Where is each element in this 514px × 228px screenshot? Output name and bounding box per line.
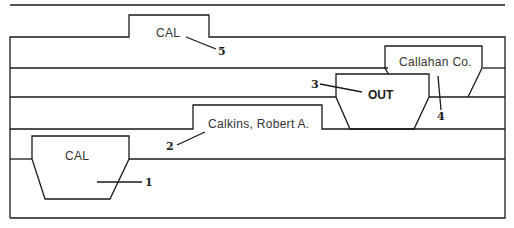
callout-line-5	[186, 37, 216, 49]
guide-top-label: CAL	[156, 26, 180, 40]
callout-2: 2	[166, 140, 174, 153]
callout-3: 3	[311, 78, 319, 91]
guide-bottom-shape	[32, 136, 129, 199]
out-guide-label: OUT	[368, 88, 394, 102]
filing-diagram: CAL Callahan Co. OUT Calkins, Robert A. …	[0, 0, 514, 228]
callout-5: 5	[218, 45, 226, 58]
folder-callahan-label: Callahan Co.	[399, 55, 472, 69]
callout-line-4	[438, 76, 441, 110]
callout-line-2	[177, 132, 205, 145]
folder-calkins-label: Calkins, Robert A.	[208, 117, 309, 131]
callout-1: 1	[145, 176, 153, 189]
guide-bottom-label: CAL	[65, 149, 89, 163]
callout-4: 4	[437, 110, 445, 123]
